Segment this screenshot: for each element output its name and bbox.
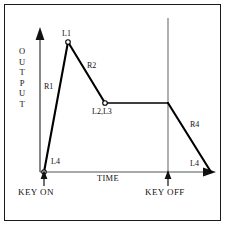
x-axis-label: TIME xyxy=(97,174,119,183)
rate-label-r1: R1 xyxy=(44,83,53,91)
rate-label-r4: R4 xyxy=(190,121,199,129)
y-axis-label-letter: P xyxy=(16,78,28,89)
level-label-l2-l3: L2,L3 xyxy=(92,108,112,116)
level-label-l4-end: L4 xyxy=(190,160,199,168)
level-label-l1: L1 xyxy=(62,30,71,38)
y-axis-label-letter: U xyxy=(16,88,28,99)
y-axis-label-letter: T xyxy=(16,67,28,78)
key-off-arrow-icon xyxy=(165,170,172,179)
level-label-l4-start: L4 xyxy=(51,158,60,166)
level-marker-l1 xyxy=(66,40,71,45)
key-on-label: KEY ON xyxy=(18,188,54,197)
rate-label-r2: R2 xyxy=(87,62,96,70)
y-axis-label-letter: T xyxy=(16,99,28,110)
attack-segment-r1 xyxy=(44,42,68,172)
decay-segment-r2 xyxy=(68,42,105,103)
y-axis-label: O U T P U T xyxy=(16,46,28,109)
y-axis-label-letter: O xyxy=(16,46,28,57)
y-axis-arrow-icon xyxy=(36,27,45,40)
level-marker-l2-l3 xyxy=(103,101,108,106)
key-off-label: KEY OFF xyxy=(145,188,185,197)
y-axis-label-letter: U xyxy=(16,57,28,68)
adsr-envelope-figure: O U T P U T TIME L1 L2,L3 L4 L4 R1 R2 R4… xyxy=(0,0,226,226)
